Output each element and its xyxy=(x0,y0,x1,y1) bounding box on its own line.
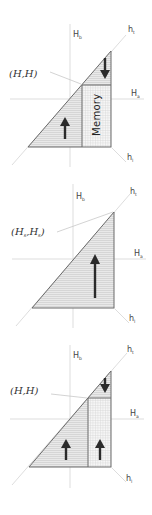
panel-2: Hb ht Ha hl (Hs,Hs) xyxy=(11,184,146,328)
diagonal-down-axis xyxy=(114,308,129,323)
diagonal-down-axis xyxy=(111,467,126,482)
panel-3: Hb ht Ha hl (H,H) xyxy=(10,345,144,488)
axis-label-ht: ht xyxy=(128,25,135,35)
leader-line xyxy=(51,394,87,398)
axis-label-hl: hl xyxy=(126,474,132,484)
point-label-hh: (H,H) xyxy=(9,68,38,79)
hysteresis-diagram: Hb ht Ha hl (H,H) Memory Hb ht xyxy=(0,0,152,515)
leader-line xyxy=(50,72,81,84)
point-label-hshs: (Hs,Hs) xyxy=(11,226,45,238)
axis-label-ht: ht xyxy=(130,187,137,197)
memory-label: Memory xyxy=(91,94,102,136)
axis-label-hb: Hb xyxy=(73,351,82,361)
axis-label-hb: Hb xyxy=(73,30,82,40)
axis-label-ha: Ha xyxy=(134,249,143,259)
axis-label-hl: hl xyxy=(127,153,133,163)
point-label-hh: (H,H) xyxy=(10,385,39,396)
axis-label-hl: hl xyxy=(129,314,135,324)
axis-label-ha: Ha xyxy=(131,89,140,99)
diagonal-down-axis xyxy=(111,147,126,162)
axis-label-hb: Hb xyxy=(76,192,85,202)
axis-label-ha: Ha xyxy=(130,409,139,419)
panel-1: Hb ht Ha hl (H,H) Memory xyxy=(9,24,144,167)
axis-label-ht: ht xyxy=(127,345,134,355)
